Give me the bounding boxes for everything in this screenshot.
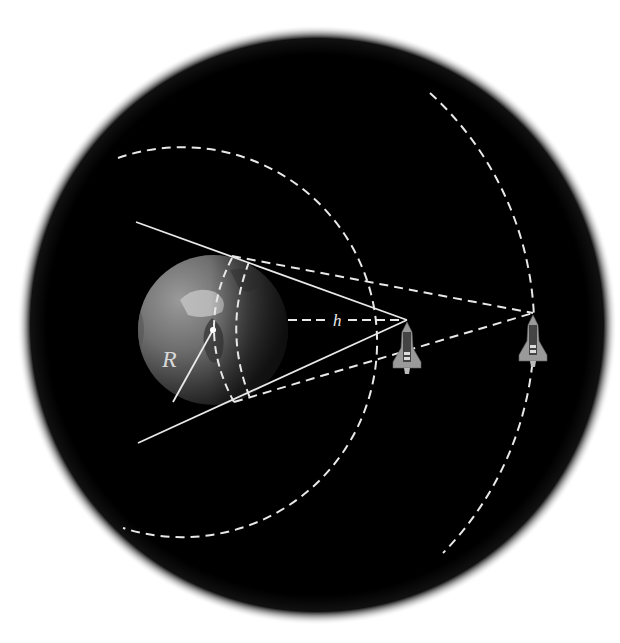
earth-center-point [210, 327, 216, 333]
space-background [17, 25, 617, 625]
label-h: h [333, 311, 342, 330]
diagram-canvas: h R [0, 0, 620, 643]
label-R: R [161, 346, 177, 372]
